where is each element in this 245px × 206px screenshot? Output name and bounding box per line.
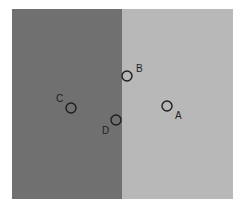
point-d: D (102, 115, 121, 136)
point-b: B (122, 63, 143, 81)
circle-c-icon (66, 103, 76, 113)
point-a: A (162, 101, 182, 121)
circle-a-icon (162, 101, 172, 111)
circle-b-icon (122, 71, 132, 81)
label-a: A (175, 110, 182, 121)
label-b: B (136, 63, 143, 74)
label-d: D (102, 125, 109, 136)
circle-d-icon (111, 115, 121, 125)
points-overlay: A B C D (0, 0, 245, 206)
label-c: C (56, 93, 63, 104)
point-c: C (56, 93, 76, 113)
